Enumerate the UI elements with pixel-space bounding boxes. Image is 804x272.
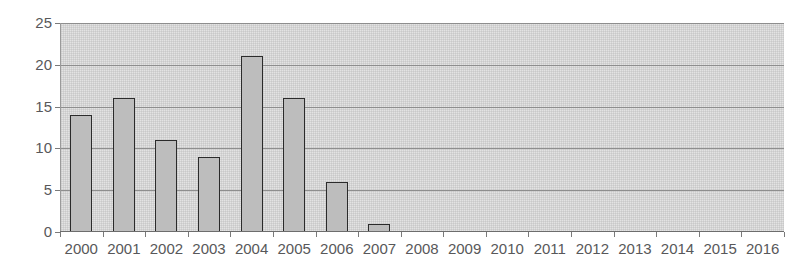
bar-2002 [155, 140, 177, 232]
x-tick-label-2011: 2011 [528, 241, 571, 256]
bar-2001 [113, 98, 135, 232]
x-tick [230, 232, 231, 237]
gridline [60, 23, 784, 24]
bar-2003 [198, 157, 220, 232]
x-tick-label-2013: 2013 [614, 241, 657, 256]
x-tick [571, 232, 572, 237]
x-tick-label-2000: 2000 [60, 241, 103, 256]
x-tick-label-2006: 2006 [316, 241, 359, 256]
gridline [60, 65, 784, 66]
x-tick-label-2008: 2008 [401, 241, 444, 256]
bar-chart: 0510152025 20002001200220032004200520062… [0, 0, 804, 272]
x-tick [273, 232, 274, 237]
bar-2005 [283, 98, 305, 232]
x-tick [486, 232, 487, 237]
y-tick-label: 0 [12, 224, 52, 239]
x-tick [401, 232, 402, 237]
x-tick-label-2004: 2004 [230, 241, 273, 256]
x-tick [656, 232, 657, 237]
y-tick-label: 5 [12, 182, 52, 197]
x-tick [784, 232, 785, 237]
y-tick-label: 20 [12, 57, 52, 72]
y-tick [55, 148, 60, 149]
plot-area [60, 23, 784, 232]
x-tick-label-2005: 2005 [273, 241, 316, 256]
y-tick-label: 25 [12, 15, 52, 30]
x-tick-label-2012: 2012 [571, 241, 614, 256]
x-tick [188, 232, 189, 237]
x-tick [699, 232, 700, 237]
x-tick-label-2016: 2016 [741, 241, 784, 256]
x-tick-label-2014: 2014 [656, 241, 699, 256]
y-tick [55, 107, 60, 108]
x-tick [528, 232, 529, 237]
y-axis-line [60, 23, 61, 232]
y-tick [55, 190, 60, 191]
bar-2000 [70, 115, 92, 232]
x-tick [614, 232, 615, 237]
y-tick-label: 15 [12, 99, 52, 114]
y-tick [55, 23, 60, 24]
bar-2004 [241, 56, 263, 232]
x-tick-label-2003: 2003 [188, 241, 231, 256]
y-tick-label: 10 [12, 140, 52, 155]
x-tick [443, 232, 444, 237]
x-tick [316, 232, 317, 237]
gridline [60, 107, 784, 108]
x-tick-label-2001: 2001 [103, 241, 146, 256]
x-tick [103, 232, 104, 237]
x-axis-line [60, 231, 784, 232]
x-tick [358, 232, 359, 237]
bar-2006 [326, 182, 348, 232]
x-tick-label-2007: 2007 [358, 241, 401, 256]
x-tick-label-2002: 2002 [145, 241, 188, 256]
x-tick-label-2010: 2010 [486, 241, 529, 256]
x-tick-label-2015: 2015 [699, 241, 742, 256]
x-tick [145, 232, 146, 237]
y-tick [55, 65, 60, 66]
x-tick [741, 232, 742, 237]
x-tick-label-2009: 2009 [443, 241, 486, 256]
x-tick [60, 232, 61, 237]
